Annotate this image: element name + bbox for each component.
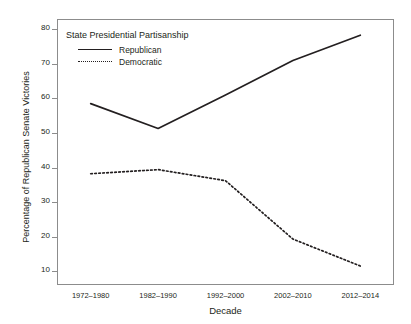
legend-title: State Presidential Partisanship <box>66 30 189 40</box>
legend-label-republican: Republican <box>119 45 162 55</box>
y-tick: 60 <box>28 98 57 99</box>
legend-swatch-republican <box>78 45 112 55</box>
y-tick: 10 <box>28 271 57 272</box>
legend-item-republican: Republican <box>78 44 189 56</box>
x-tick-label: 2012–2014 <box>342 291 380 301</box>
x-tick-label: 2002–2010 <box>274 291 312 301</box>
y-tick: 50 <box>28 133 57 134</box>
y-tick-label: 50 <box>41 127 50 137</box>
y-tick-label: 30 <box>41 196 50 206</box>
x-tick-label: 1992–2000 <box>207 291 245 301</box>
x-tick-label: 1982–1990 <box>139 291 177 301</box>
y-axis-title: Percentage of Republican Senate Victorie… <box>21 24 31 290</box>
y-tick-label: 80 <box>41 23 50 33</box>
y-tick-label: 20 <box>41 231 50 241</box>
y-tick-label: 10 <box>41 265 50 275</box>
y-tick-label: 40 <box>41 162 50 172</box>
y-tick: 80 <box>28 29 57 30</box>
legend-item-democratic: Democratic <box>78 56 189 68</box>
y-tick-label: 60 <box>41 92 50 102</box>
series-line-democratic <box>91 170 361 266</box>
y-tick: 40 <box>28 168 57 169</box>
y-tick-label: 70 <box>41 58 50 68</box>
x-axis-title: Decade <box>57 305 394 316</box>
x-tick-label: 1972–1980 <box>72 291 110 301</box>
y-tick: 20 <box>28 237 57 238</box>
y-tick: 30 <box>28 202 57 203</box>
chart-legend: State Presidential Partisanship Republic… <box>66 30 189 68</box>
chart-figure: 1020304050607080 1972–19801982–19901992–… <box>0 0 411 324</box>
y-tick: 70 <box>28 64 57 65</box>
legend-swatch-democratic <box>78 57 112 67</box>
legend-label-democratic: Democratic <box>119 57 162 67</box>
